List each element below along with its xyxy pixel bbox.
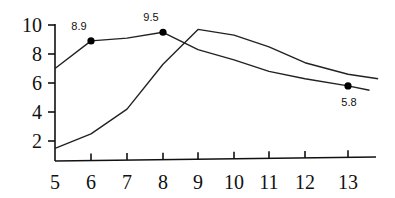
data-point-label: 9.5	[143, 11, 158, 23]
x-tick-label: 5	[50, 171, 60, 193]
series-line-b	[55, 29, 378, 148]
x-tick-label: 9	[193, 171, 203, 193]
x-axis-line	[55, 157, 376, 161]
data-point-label: 5.8	[341, 96, 356, 108]
line-chart: 2468105678910111213 8.99.55.8	[0, 0, 395, 198]
data-point-marker	[159, 29, 166, 36]
y-tick-label: 6	[32, 72, 42, 94]
x-tick-label: 12	[295, 171, 315, 193]
x-tick-label: 13	[338, 171, 358, 193]
x-tick-label: 11	[259, 171, 278, 193]
x-tick-label: 7	[122, 171, 132, 193]
data-point-marker	[87, 37, 94, 44]
data-point-label: 8.9	[71, 20, 86, 32]
x-tick-label: 6	[86, 171, 96, 193]
data-labels: 8.99.55.8	[71, 11, 356, 108]
y-tick-label: 8	[32, 43, 42, 65]
series-layer	[55, 29, 378, 149]
y-tick-label: 10	[22, 14, 42, 36]
axes: 2468105678910111213	[22, 14, 376, 193]
y-tick-label: 2	[32, 130, 42, 152]
x-tick-label: 10	[224, 171, 244, 193]
y-tick-label: 4	[32, 101, 42, 123]
data-point-marker	[344, 82, 351, 89]
series-line-a	[55, 32, 370, 90]
x-tick-label: 8	[158, 171, 168, 193]
